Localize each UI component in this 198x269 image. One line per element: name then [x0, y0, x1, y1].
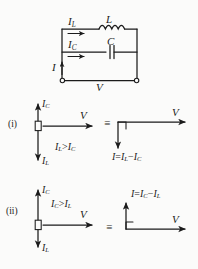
case-i-resultant-label: I=IL−IC [112, 152, 141, 163]
case-i-v-label: V [80, 110, 87, 121]
capacitor-current-label: IC [68, 39, 77, 52]
physics-figure: IL L IC C I V (i) IC IL V IL>IC ≡ I=IL−I… [0, 0, 198, 269]
terminal-left [60, 78, 64, 82]
figure-canvas [0, 0, 198, 269]
case-ii-v-label: V [80, 209, 87, 220]
capacitor-label: C [107, 36, 114, 47]
case-ii-condition-label: IC>IL [51, 199, 71, 210]
case-i-ic-label: IC [42, 99, 50, 110]
inductor-label: L [106, 14, 112, 25]
case-i-il-label: IL [42, 156, 49, 167]
case-i-result-right-angle-marker [118, 122, 126, 129]
case-i-condition-label: IL>IC [55, 142, 75, 153]
case-ii-result-right-angle-marker [126, 222, 133, 229]
case-ii-right-angle-marker [35, 220, 41, 229]
source-voltage-label: V [96, 82, 103, 93]
circuit-diagram [60, 25, 139, 82]
case-ii-il-label: IL [42, 243, 49, 254]
case-ii-result-v-label: V [172, 214, 179, 225]
case-ii-ic-label: IC [42, 185, 50, 196]
case-i-marker: (i) [8, 120, 17, 130]
inductor-coil-symbol [99, 25, 125, 29]
case-ii-resultant-label: I=IC−IL [131, 189, 160, 200]
terminal-right [134, 78, 138, 82]
inductor-current-label: IL [68, 16, 76, 29]
case-i-right-angle-marker [35, 121, 41, 130]
total-current-label: I [52, 62, 56, 73]
case-i-phasor-right [118, 122, 185, 148]
case-i-result-v-label: V [172, 107, 179, 118]
case-i-equivalence-symbol: ≡ [104, 118, 110, 129]
case-ii-marker: (ii) [6, 207, 18, 217]
case-ii-equivalence-symbol: ≡ [106, 222, 112, 233]
